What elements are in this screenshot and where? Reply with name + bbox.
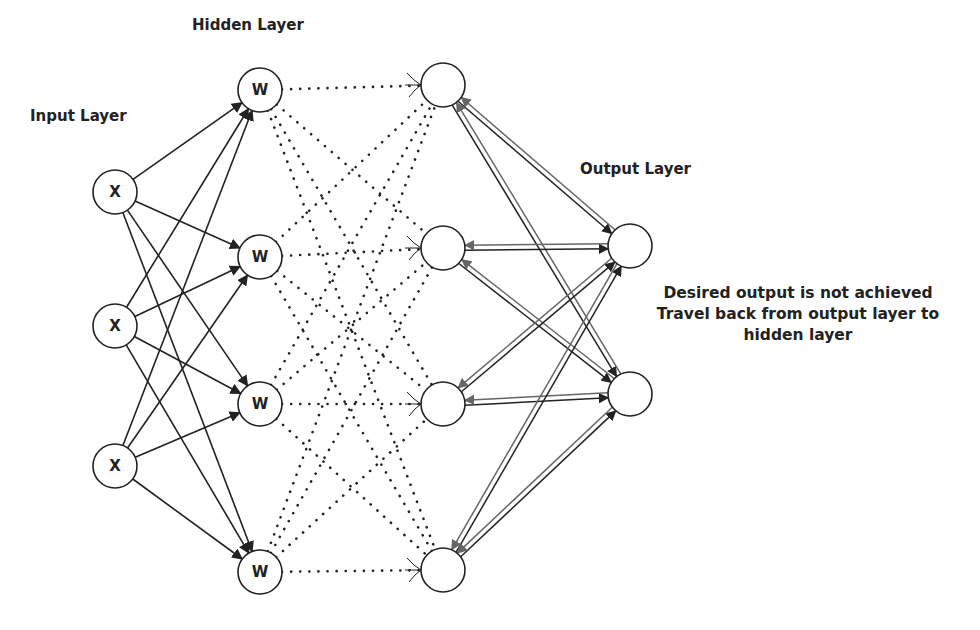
dendrite-icon [409,570,421,582]
svg-text:X: X [109,183,121,201]
forward-edge [461,411,616,557]
hidden2-node [421,63,465,107]
forward-edge [456,266,621,552]
backprop-edge [465,244,608,246]
hidden-to-hidden-dotted-connections [268,86,436,572]
hidden-node: W [238,68,282,112]
hidden2-node [421,548,465,592]
nodes: XXXWWWW [93,63,652,594]
hidden-layer-label: Hidden Layer [192,16,304,34]
input-hidden-edge [123,111,252,446]
forward-edge [465,249,608,251]
input-hidden-edge [123,213,252,552]
hidden-node: W [238,235,282,279]
hidden2-node [421,226,465,270]
dendrite-glyphs [405,73,421,582]
input-hidden-edge [135,413,240,458]
dotted-edge [282,249,421,256]
input-hidden-edge [128,275,248,448]
input-hidden-edge [133,479,242,559]
backprop-edge [457,407,612,553]
dendrite-icon [407,73,421,85]
dendrite-icon [407,558,421,570]
svg-text:W: W [252,395,269,413]
hidden2-node [421,382,465,426]
input-hidden-edge [126,345,249,553]
dotted-edge [282,86,421,90]
backprop-note: Desired output is not achieved Travel ba… [638,283,958,346]
svg-text:W: W [252,81,269,99]
dotted-edge [271,267,432,553]
svg-text:X: X [109,457,121,475]
input-layer-label: Input Layer [30,107,127,125]
dendrite-icon [409,404,421,416]
input-to-hidden-connections [123,103,252,559]
svg-text:X: X [109,317,121,335]
dendrite-icon [407,392,421,404]
input-node: X [93,444,137,488]
dotted-edge [276,419,427,557]
input-node: X [93,170,137,214]
backprop-edge [452,264,617,550]
dendrite-icon [407,236,421,248]
dotted-edge [277,104,427,233]
hidden-node: W [238,550,282,594]
svg-text:W: W [252,563,269,581]
output-node [608,372,652,416]
dotted-edge [271,109,432,385]
dotted-edge [271,276,432,551]
dotted-edge [271,104,432,385]
output-node [608,224,652,268]
input-hidden-edge [127,210,247,386]
output-layer-label: Output Layer [580,160,691,178]
forward-edge [452,105,616,376]
input-hidden-edge [133,103,242,180]
dotted-edge [277,262,427,389]
dendrite-icon [409,85,421,97]
backprop-edge [457,103,621,374]
input-node: X [93,304,137,348]
dendrite-icon [409,248,421,260]
dotted-edge [282,570,421,572]
hidden-node: W [238,382,282,426]
svg-text:W: W [252,248,269,266]
dotted-edge [276,100,427,242]
